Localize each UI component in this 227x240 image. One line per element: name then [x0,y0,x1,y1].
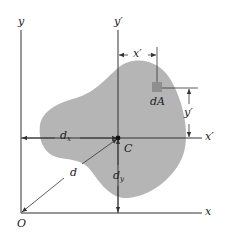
dx-label: dx [60,130,71,141]
d-label: d [70,167,77,178]
y-prime-dim-label: y′ [184,107,193,118]
dx-sub: x [67,135,71,143]
element-dA-label: dA [150,96,165,107]
d-line-lower [22,178,64,212]
centroid-point [116,136,121,141]
y-axis-label: y [18,16,24,27]
dy-label: dy [113,170,124,181]
x-prime-axis-label: x′ [205,131,214,142]
origin-label: O [17,218,26,229]
y-prime-axis-label: y′ [114,16,123,27]
x-axis-label: x [205,206,211,217]
dy-main: d [113,169,120,182]
dy-sub: y [120,175,124,183]
x-prime-dim-label: x′ [133,48,142,59]
element-dA [152,82,162,92]
centroid-label: C [124,143,132,154]
diagram-canvas [0,0,227,240]
dx-main: d [60,129,67,142]
